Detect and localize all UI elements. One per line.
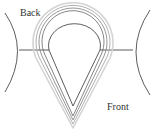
back-label: Back xyxy=(20,8,41,18)
outer-ring-4 xyxy=(33,3,113,128)
right-boundary-arc xyxy=(136,10,150,95)
inner-teardrop xyxy=(49,24,101,106)
teardrop-layer-diagram xyxy=(0,0,152,132)
left-boundary-arc xyxy=(5,13,18,92)
front-label: Front xyxy=(107,102,129,112)
outer-ring-1 xyxy=(42,11,104,116)
